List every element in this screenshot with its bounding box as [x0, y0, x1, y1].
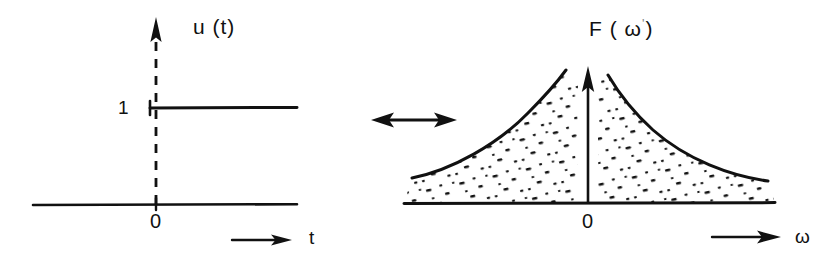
transform-pair-relation: [371, 113, 457, 128]
figure-drawing-canvas: [0, 0, 840, 261]
right-plot-function-label: F ( ω'): [589, 17, 653, 39]
left-plot-step-plateau: [150, 107, 297, 108]
left-plot-group: [33, 17, 297, 246]
prime-mark: ': [642, 16, 645, 31]
left-plot-x-axis-label: t: [309, 228, 314, 247]
right-plot-x-axis-label: ω: [795, 227, 810, 246]
left-plot-origin-label: 0: [150, 211, 161, 231]
left-plot-amplitude-tick-label: 1: [118, 98, 129, 117]
left-plot-function-label: u (t): [193, 16, 235, 37]
up-arrow-icon: [150, 17, 161, 42]
figure-unit-step-fourier-pair: u (t) 1 0 t F ( ω') 0 ω: [0, 0, 840, 261]
right-plot-x-axis: [404, 203, 775, 204]
right-plot-origin-label: 0: [582, 211, 593, 231]
left-plot-x-axis: [33, 204, 297, 205]
right-plot-function-label-close: ): [645, 17, 653, 40]
right-plot-function-label-text: F ( ω: [589, 17, 642, 40]
